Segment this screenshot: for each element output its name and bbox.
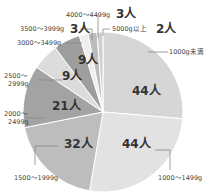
value-label: 44人 <box>132 83 162 98</box>
category-label: 3000～3499g <box>17 39 61 47</box>
category-label: 5000g以上 <box>112 24 147 33</box>
category-label: 2500～ <box>4 72 28 80</box>
value-label: 2人 <box>156 21 177 36</box>
pie-slices <box>23 32 183 192</box>
value-label: 44人 <box>122 136 152 151</box>
value-label: 9人 <box>78 52 99 67</box>
pie-slice <box>103 32 183 119</box>
category-label: 2999g <box>8 80 29 88</box>
pie-chart: 1000g未満 1000～1499g 1500～1999g 2000～ 2499… <box>0 0 206 193</box>
category-label: 1500～1999g <box>14 174 58 182</box>
value-label: 9人 <box>62 68 83 83</box>
category-label: 3500～3999g <box>20 25 64 33</box>
category-label: 1000～1499g <box>158 174 202 182</box>
value-label: 3人 <box>116 6 137 21</box>
value-label: 21人 <box>52 98 82 113</box>
category-label: 1000g未満 <box>169 47 204 56</box>
category-label: 4000～4499g <box>66 11 110 19</box>
value-label: 32人 <box>64 136 94 151</box>
value-label: 3人 <box>70 21 91 36</box>
category-label: 2499g <box>8 118 29 126</box>
category-label: 2000～ <box>4 110 28 118</box>
